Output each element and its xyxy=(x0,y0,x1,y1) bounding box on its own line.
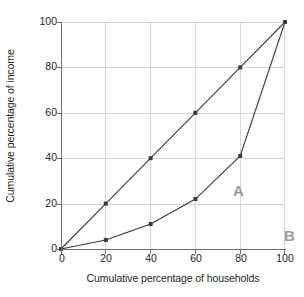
data-point-marker xyxy=(283,20,287,24)
y-tick-label-80: 80 xyxy=(31,61,57,72)
data-point-marker xyxy=(149,156,153,160)
data-point-marker xyxy=(193,111,197,115)
y-tick-label-20: 20 xyxy=(31,198,57,209)
x-tick-label-20: 20 xyxy=(91,252,121,264)
x-tick-label-60: 60 xyxy=(181,252,211,264)
data-point-marker xyxy=(104,238,108,242)
region-label-a: A xyxy=(233,183,244,198)
y-tick-label-40: 40 xyxy=(31,152,57,163)
data-point-marker xyxy=(238,154,242,158)
y-axis-line xyxy=(61,22,62,250)
data-point-marker xyxy=(238,65,242,69)
y-tick-label-60: 60 xyxy=(31,107,57,118)
y-tick-label-100: 100 xyxy=(31,16,57,27)
x-axis-line xyxy=(61,249,286,250)
series-layer xyxy=(61,22,285,249)
data-point-marker xyxy=(104,202,108,206)
data-point-marker xyxy=(193,197,197,201)
x-tick-label-80: 80 xyxy=(226,252,256,264)
y-axis-title: Cumulative percentage of income xyxy=(2,0,18,252)
x-axis-tick-labels: 0 20 40 60 80 100 xyxy=(0,252,304,268)
x-tick-label-40: 40 xyxy=(136,252,166,264)
lorenz-curve-chart: Cumulative percentage of income 100 80 6… xyxy=(0,0,304,297)
data-point-marker xyxy=(149,222,153,226)
x-tick-label-100: 100 xyxy=(270,252,300,264)
x-axis-title: Cumulative percentage of households xyxy=(61,272,285,284)
line-of-equality-path xyxy=(61,22,285,249)
plot-area: A B xyxy=(61,22,285,249)
x-tick-label-0: 0 xyxy=(47,252,77,264)
region-label-b: B xyxy=(284,228,295,243)
